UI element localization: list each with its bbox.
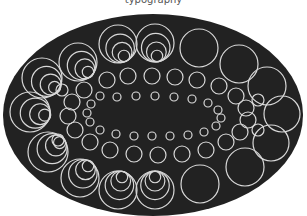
dark-ellipse (3, 14, 303, 216)
concentric-circles-artwork (0, 0, 307, 216)
